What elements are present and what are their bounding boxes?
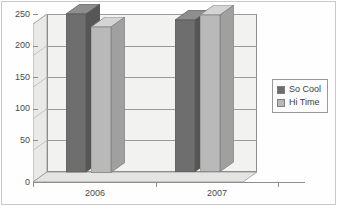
xtick-label-2007: 2007 (187, 188, 247, 198)
ytick-250: 250 (0, 10, 30, 19)
ytick-label: 250 (4, 10, 30, 19)
bar-2006-so-cool (66, 4, 86, 182)
bar-3d-body (200, 5, 234, 182)
bar-2006-hi-time (91, 17, 111, 182)
xtick-mark-mid (156, 182, 157, 187)
xtick-mark-left (33, 182, 34, 187)
ytick-label: 200 (4, 41, 30, 50)
bar-2007-so-cool (175, 10, 195, 182)
ytick-0: 0 (0, 178, 30, 187)
ytick-mark-50 (33, 140, 38, 141)
xtick-mark-right (278, 182, 279, 187)
xtick-label-2006: 2006 (65, 188, 125, 198)
ytick-50: 50 (0, 136, 30, 145)
legend-label-hi-time: Hi Time (289, 98, 320, 107)
bar-3d-body (91, 17, 125, 182)
ytick-label: 100 (4, 104, 30, 113)
bar-chart: 250 200 150 100 50 0 2006 2007 (0, 0, 337, 206)
legend-swatch-hi-time (277, 99, 285, 107)
legend-item-hi-time[interactable]: Hi Time (277, 97, 323, 108)
ytick-label: 0 (4, 178, 30, 187)
ytick-100: 100 (0, 104, 30, 113)
ytick-mark-250 (33, 14, 38, 15)
ytick-label: 150 (4, 73, 30, 82)
side-wall-gridlines (33, 4, 49, 184)
ytick-200: 200 (0, 41, 30, 50)
bar-2007-hi-time (200, 5, 220, 182)
ytick-mark-200 (33, 46, 38, 47)
ytick-mark-150 (33, 77, 38, 78)
ytick-150: 150 (0, 73, 30, 82)
ytick-label: 50 (4, 136, 30, 145)
x-axis-line (33, 182, 305, 183)
legend-label-so-cool: So Cool (289, 85, 321, 94)
legend-item-so-cool[interactable]: So Cool (277, 84, 323, 95)
ytick-mark-100 (33, 109, 38, 110)
legend-swatch-so-cool (277, 86, 285, 94)
legend: So Cool Hi Time (272, 79, 328, 113)
